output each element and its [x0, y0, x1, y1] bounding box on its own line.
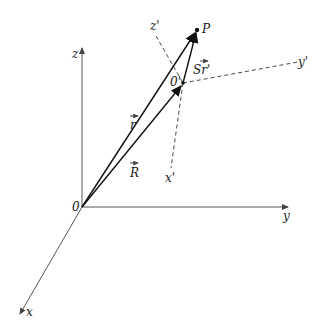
- label-origin: 0: [72, 200, 80, 214]
- point-P-dot: [195, 28, 199, 32]
- label-y-prime: y': [297, 55, 308, 69]
- label-x-prime: x': [165, 171, 175, 185]
- label-origin-prime: 0': [170, 75, 181, 89]
- label-z-prime: z': [149, 19, 160, 33]
- label-vec-R: R: [129, 163, 139, 180]
- vector-R: [82, 86, 181, 207]
- label-vec-delta-r-prime: Sr': [193, 61, 210, 77]
- point-O-prime-dot: [181, 81, 185, 85]
- svg-text:R: R: [129, 166, 139, 180]
- x-axis: [20, 207, 82, 314]
- label-y: y: [282, 209, 290, 223]
- coordinate-diagram: z y x 0 z' y' x' 0' P r R Sr': [0, 0, 324, 330]
- label-vec-r: r: [130, 116, 138, 132]
- label-x: x: [26, 305, 33, 319]
- svg-text:Sr': Sr': [193, 63, 210, 77]
- label-z: z: [71, 47, 79, 61]
- label-P: P: [201, 22, 211, 36]
